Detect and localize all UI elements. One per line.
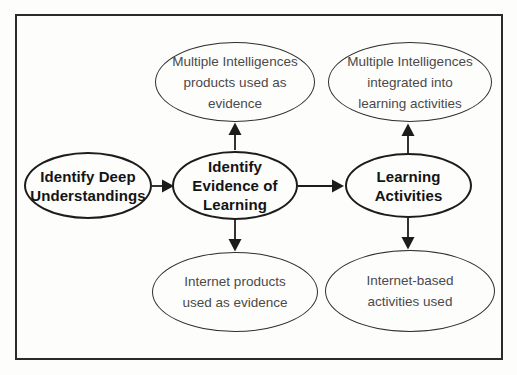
node-multiple-intelligences-products: Multiple Intelligences products used as …	[155, 42, 315, 122]
node-label-line: Understandings	[30, 186, 146, 205]
arrow-evidence-to-mi-products	[229, 123, 242, 151]
node-label-line: integrated into	[367, 72, 453, 93]
node-label-line: products used as	[184, 72, 287, 93]
node-label-line: Multiple Intelligences	[172, 51, 297, 72]
node-multiple-intelligences-integrated: Multiple Intelligences integrated into l…	[328, 42, 492, 122]
node-internet-based-activities: Internet-based activities used	[325, 250, 495, 332]
arrow-evidence-to-internet-products	[229, 220, 242, 252]
node-label-line: Evidence of	[192, 176, 277, 195]
arrow-activities-to-mi-integrated	[402, 124, 415, 154]
arrow-deep-to-evidence	[152, 180, 174, 193]
node-label-line: Internet-based	[366, 270, 453, 291]
node-label-line: Learning	[203, 195, 267, 214]
node-label-line: evidence	[208, 93, 262, 114]
node-label-line: used as evidence	[182, 292, 287, 313]
node-label-line: Multiple Intelligences	[347, 51, 472, 72]
node-label-line: Learning	[376, 167, 440, 186]
node-label-line: activities used	[368, 291, 453, 312]
node-label-line: learning activities	[358, 93, 462, 114]
diagram-canvas: Multiple Intelligences products used as …	[0, 0, 517, 375]
arrow-activities-to-internet-based	[402, 218, 415, 250]
node-identify-evidence-of-learning: Identify Evidence of Learning	[172, 151, 298, 220]
arrow-evidence-to-activities	[298, 180, 344, 193]
node-label-line: Identify Deep	[40, 167, 135, 186]
node-internet-products: Internet products used as evidence	[152, 252, 318, 332]
node-label-line: Identify	[208, 157, 262, 176]
node-identify-deep-understandings: Identify Deep Understandings	[24, 152, 152, 219]
node-label-line: Internet products	[184, 271, 285, 292]
node-label-line: Activities	[375, 186, 443, 205]
node-learning-activities: Learning Activities	[345, 153, 472, 218]
